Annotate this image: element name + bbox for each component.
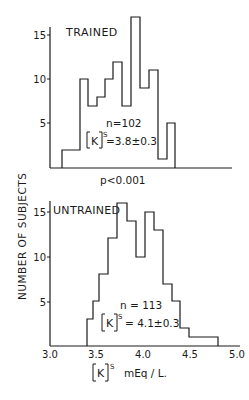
p-value: p<0.001 bbox=[100, 174, 146, 186]
untrained-histogram: 15 10 5 UNTRAINED n = 113 K S = 4.1±0.3 … bbox=[33, 201, 245, 381]
xtick-5-0: 5.0 bbox=[229, 349, 245, 360]
top-ytick-10: 10 bbox=[33, 74, 46, 85]
untrained-k-label: K S bbox=[102, 313, 123, 331]
xtick-4-0: 4.0 bbox=[135, 349, 151, 360]
bottom-ytick-15: 15 bbox=[33, 207, 46, 218]
svg-text:mEq / L.: mEq / L. bbox=[124, 367, 167, 379]
x-axis-label: K S mEq / L. bbox=[93, 363, 167, 381]
y-axis-label: NUMBER OF SUBJECTS bbox=[16, 173, 28, 300]
svg-text:K: K bbox=[106, 317, 114, 330]
trained-k-label: K S bbox=[87, 131, 108, 148]
top-ytick-5: 5 bbox=[40, 118, 46, 129]
xtick-3-0: 3.0 bbox=[42, 349, 58, 360]
xtick-3-5: 3.5 bbox=[88, 349, 104, 360]
top-ytick-15: 15 bbox=[33, 30, 46, 41]
xtick-4-5: 4.5 bbox=[182, 349, 198, 360]
svg-text:K: K bbox=[91, 135, 99, 148]
svg-text:K: K bbox=[97, 367, 105, 380]
untrained-n: n = 113 bbox=[120, 299, 162, 311]
trained-title: TRAINED bbox=[65, 26, 118, 39]
bottom-ytick-5: 5 bbox=[40, 297, 46, 308]
svg-text:S: S bbox=[118, 313, 123, 321]
bottom-ytick-10: 10 bbox=[33, 252, 46, 263]
svg-text:S: S bbox=[110, 363, 115, 371]
trained-histogram: 15 10 5 TRAINED n=102 K S =3.8±0.3 p<0.0… bbox=[33, 17, 232, 186]
figure: NUMBER OF SUBJECTS 15 10 5 TRAINED n=102… bbox=[0, 0, 249, 400]
trained-mean: =3.8±0.3 bbox=[106, 135, 157, 147]
trained-n: n=102 bbox=[106, 117, 142, 129]
untrained-title: UNTRAINED bbox=[53, 204, 120, 217]
untrained-mean: = 4.1±0.3 bbox=[125, 317, 179, 329]
